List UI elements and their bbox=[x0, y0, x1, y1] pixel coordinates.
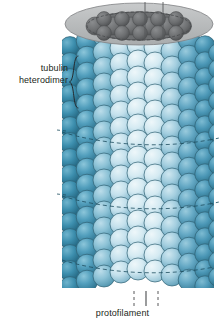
microtubule-tube bbox=[0, 0, 219, 324]
tubulin-label-line2: heterodimer bbox=[6, 75, 68, 87]
tubulin-heterodimer-label: tubulin heterodimer bbox=[6, 63, 68, 86]
protofilament-label: protofilament bbox=[0, 308, 219, 320]
microtubule-diagram: tubulin heterodimer protofilament bbox=[0, 0, 219, 324]
microtubule-cap bbox=[65, 3, 213, 45]
tubulin-label-line1: tubulin bbox=[6, 63, 68, 75]
protofilament bbox=[209, 44, 219, 287]
protofilament-array bbox=[60, 18, 219, 297]
